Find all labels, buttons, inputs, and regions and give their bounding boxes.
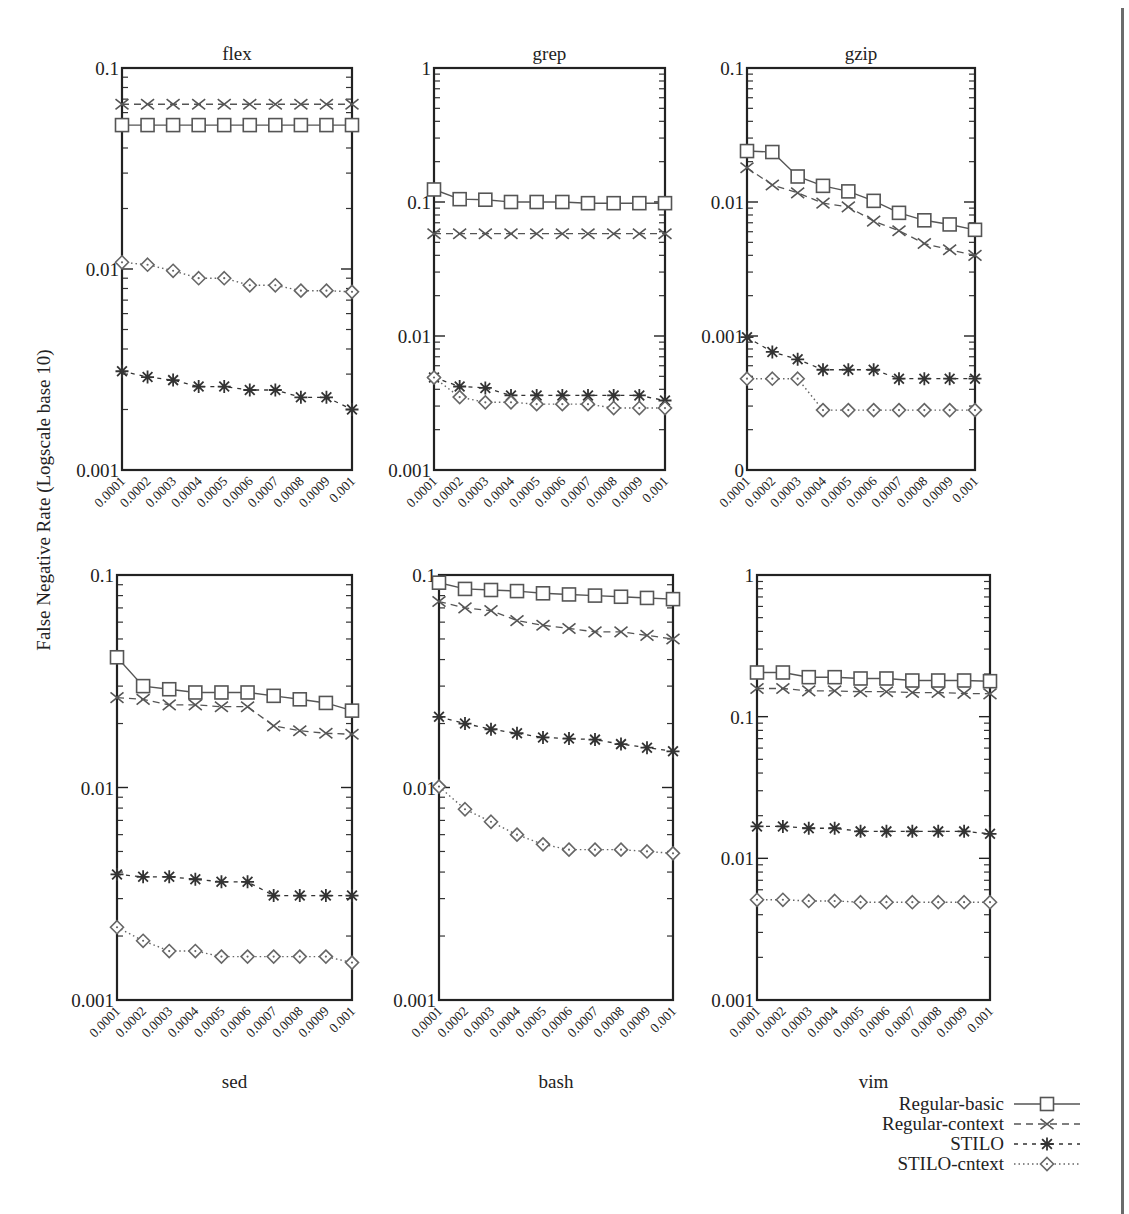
- series-line-regular-basic: [439, 583, 673, 599]
- legend-label: Regular-context: [882, 1113, 1005, 1134]
- regular-basic-square-marker-icon: [346, 119, 359, 132]
- stilo-star-marker-icon: [346, 403, 359, 416]
- plot-frame: [757, 575, 990, 1000]
- regular-basic-square-marker-icon: [192, 119, 205, 132]
- stilo-cntext-diamond-marker-icon: [776, 893, 789, 906]
- subplot-gzip: 0.10.010.00100.00010.00020.00030.00040.0…: [701, 43, 981, 510]
- series-line-regular-context: [757, 689, 990, 694]
- x-tick-label: 0.001: [949, 474, 981, 506]
- stilo-star-marker-icon: [817, 363, 830, 376]
- regular-context-x-marker-icon: [511, 615, 524, 625]
- regular-basic-square-marker-icon: [479, 193, 492, 206]
- regular-basic-square-marker-icon: [766, 146, 779, 159]
- stilo-star-marker-icon: [932, 825, 945, 838]
- plot-frame: [434, 68, 665, 470]
- regular-context-x-marker-icon: [137, 694, 150, 704]
- stilo-star-marker-icon: [906, 825, 919, 838]
- stilo-cntext-diamond-marker-icon: [918, 404, 931, 417]
- stilo-star-marker-icon: [241, 875, 254, 888]
- regular-basic-square-marker-icon: [346, 704, 359, 717]
- regular-context-x-marker-icon: [791, 188, 804, 198]
- regular-basic-square-marker-icon: [485, 583, 498, 596]
- regular-basic-square-marker-icon: [319, 696, 332, 709]
- stilo-star-marker-icon: [243, 384, 256, 397]
- regular-basic-square-marker-icon: [828, 671, 841, 684]
- regular-basic-square-marker-icon: [116, 119, 129, 132]
- regular-basic-square-marker-icon: [137, 680, 150, 693]
- subplot-title: sed: [222, 1071, 248, 1092]
- stilo-cntext-diamond-marker-icon: [854, 896, 867, 909]
- regular-basic-square-marker-icon: [243, 119, 256, 132]
- stilo-star-marker-icon: [167, 374, 180, 387]
- y-tick-label: 1: [745, 565, 755, 586]
- regular-basic-square-marker-icon: [589, 589, 602, 602]
- regular-basic-square-marker-icon: [607, 197, 620, 210]
- stilo-cntext-diamond-marker-icon: [111, 921, 124, 934]
- regular-context-x-marker-icon: [943, 245, 956, 255]
- regular-basic-square-marker-icon: [269, 119, 282, 132]
- regular-basic-square-marker-icon: [320, 119, 333, 132]
- series-line-stilo-cntext: [122, 262, 352, 292]
- regular-basic-square-marker-icon: [633, 197, 646, 210]
- stilo-star-marker-icon: [867, 363, 880, 376]
- regular-context-x-marker-icon: [479, 229, 492, 239]
- regular-context-x-marker-icon: [459, 603, 472, 613]
- series-line-stilo-cntext: [439, 787, 673, 854]
- regular-basic-square-marker-icon: [969, 223, 982, 236]
- stilo-cntext-diamond-marker-icon: [659, 402, 672, 415]
- regular-basic-square-marker-icon: [641, 591, 654, 604]
- legend-entry-stilo: STILO: [950, 1133, 1080, 1154]
- stilo-star-marker-icon: [751, 820, 764, 833]
- stilo-cntext-diamond-marker-icon: [241, 950, 254, 963]
- legend-diamond-marker-icon: [1041, 1158, 1054, 1171]
- series-line-regular-basic: [434, 189, 665, 203]
- series-line-regular-context: [747, 168, 975, 256]
- stilo-star-marker-icon: [479, 381, 492, 394]
- stilo-cntext-diamond-marker-icon: [842, 404, 855, 417]
- stilo-star-marker-icon: [776, 820, 789, 833]
- regular-basic-square-marker-icon: [453, 193, 466, 206]
- stilo-cntext-diamond-marker-icon: [802, 894, 815, 907]
- regular-basic-square-marker-icon: [293, 693, 306, 706]
- stilo-star-marker-icon: [269, 384, 282, 397]
- regular-basic-square-marker-icon: [511, 585, 524, 598]
- regular-basic-square-marker-icon: [659, 197, 672, 210]
- stilo-cntext-diamond-marker-icon: [218, 272, 231, 285]
- page-edge-divider: [1121, 8, 1124, 1214]
- stilo-star-marker-icon: [563, 732, 576, 745]
- stilo-star-marker-icon: [667, 745, 680, 758]
- regular-basic-square-marker-icon: [530, 196, 543, 209]
- series-line-stilo-cntext: [747, 379, 975, 410]
- stilo-cntext-diamond-marker-icon: [215, 950, 228, 963]
- stilo-cntext-diamond-marker-icon: [667, 847, 680, 860]
- series-line-regular-context: [117, 698, 352, 735]
- subplot-vim: 10.10.010.0010.00010.00020.00030.00040.0…: [711, 565, 996, 1092]
- stilo-star-marker-icon: [880, 825, 893, 838]
- stilo-cntext-diamond-marker-icon: [267, 950, 280, 963]
- stilo-star-marker-icon: [741, 331, 754, 344]
- series-line-stilo-cntext: [117, 927, 352, 962]
- x-tick-label: 0.001: [326, 1004, 358, 1036]
- regular-basic-square-marker-icon: [563, 588, 576, 601]
- stilo-cntext-diamond-marker-icon: [167, 264, 180, 277]
- stilo-star-marker-icon: [633, 389, 646, 402]
- legend-star-marker-icon: [1041, 1138, 1054, 1151]
- legend-entry-regular-context: Regular-context: [882, 1113, 1080, 1134]
- regular-basic-square-marker-icon: [867, 194, 880, 207]
- stilo-cntext-diamond-marker-icon: [932, 896, 945, 909]
- stilo-star-marker-icon: [791, 353, 804, 366]
- plot-frame: [122, 68, 352, 470]
- stilo-cntext-diamond-marker-icon: [563, 843, 576, 856]
- stilo-star-marker-icon: [319, 889, 332, 902]
- stilo-cntext-diamond-marker-icon: [615, 843, 628, 856]
- stilo-cntext-diamond-marker-icon: [817, 404, 830, 417]
- stilo-cntext-diamond-marker-icon: [958, 896, 971, 909]
- stilo-star-marker-icon: [293, 889, 306, 902]
- stilo-star-marker-icon: [163, 870, 176, 883]
- x-tick-label: 0.001: [647, 1004, 679, 1036]
- stilo-star-marker-icon: [615, 738, 628, 751]
- stilo-cntext-diamond-marker-icon: [293, 950, 306, 963]
- series-line-stilo: [747, 337, 975, 379]
- series-line-regular-basic: [117, 657, 352, 710]
- regular-basic-square-marker-icon: [459, 582, 472, 595]
